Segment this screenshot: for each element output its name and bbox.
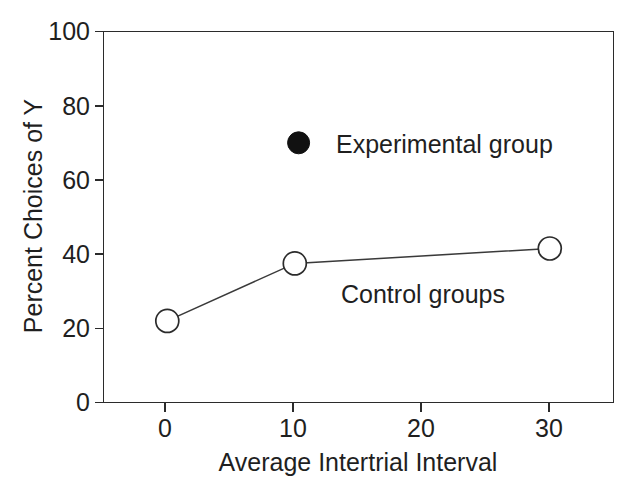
annotation-control-groups: Control groups [341, 280, 505, 308]
y-tick-label-60: 60 [62, 166, 90, 194]
x-tick-label-0: 0 [158, 414, 172, 442]
y-axis-ticks [95, 32, 104, 403]
y-tick-label-100: 100 [48, 17, 90, 45]
data-point-control-10 [283, 252, 306, 275]
data-point-experimental [288, 132, 310, 154]
x-tick-label-20: 20 [407, 414, 435, 442]
data-point-control-30 [538, 237, 561, 260]
y-tick-label-0: 0 [76, 388, 90, 416]
chart-figure: 100 80 60 40 20 0 0 10 20 30 Average Int… [0, 0, 632, 489]
y-tick-label-20: 20 [62, 314, 90, 342]
legend-label-experimental: Experimental group [336, 130, 553, 158]
x-tick-label-30: 30 [535, 414, 563, 442]
line-chart: 100 80 60 40 20 0 0 10 20 30 Average Int… [0, 0, 632, 489]
y-tick-label-40: 40 [62, 240, 90, 268]
x-axis-ticks [165, 403, 549, 412]
data-point-control-0 [156, 309, 179, 332]
y-tick-label-80: 80 [62, 92, 90, 120]
x-axis-title: Average Intertrial Interval [219, 448, 498, 476]
plot-frame [104, 32, 614, 403]
x-tick-label-10: 10 [279, 414, 307, 442]
y-axis-title: Percent Choices of Y [19, 98, 47, 333]
